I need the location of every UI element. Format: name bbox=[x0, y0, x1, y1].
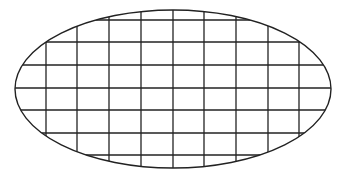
ellipse-grid-diagram bbox=[0, 0, 341, 182]
grid-lines bbox=[13, 8, 333, 170]
